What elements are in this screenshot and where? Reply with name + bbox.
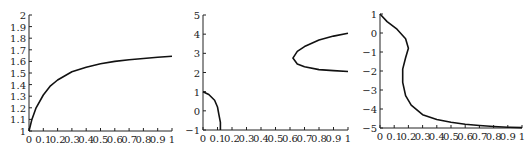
y-tick-label: 5 xyxy=(194,10,200,21)
y-tick-label: 1.9 xyxy=(10,22,26,33)
x-tick-label: 1 xyxy=(345,133,351,144)
chart-canvas: 00.10.20.30.40.50.60.70.80.9111.11.21.31… xyxy=(0,0,532,151)
x-tick-label: 0.9 xyxy=(326,133,342,144)
y-tick-label: −5 xyxy=(362,123,377,134)
x-tick-label: 0.9 xyxy=(150,134,166,145)
y-tick-label: 2 xyxy=(20,10,26,21)
series-curve xyxy=(380,14,522,128)
x-tick-label: 0 xyxy=(26,134,32,145)
y-tick-label: 1.3 xyxy=(10,91,26,102)
series-curve xyxy=(29,56,172,131)
y-tick-label: 1.7 xyxy=(10,45,26,56)
y-tick-label: −1 xyxy=(185,125,200,136)
y-tick-label: 1.8 xyxy=(10,33,26,44)
y-tick-label: 1.2 xyxy=(10,103,26,114)
y-tick-label: 1 xyxy=(371,9,377,20)
y-tick-label: 1 xyxy=(194,87,200,98)
y-tick-label: 0 xyxy=(194,106,200,117)
y-tick-label: 1 xyxy=(20,126,26,137)
y-tick-label: 1.5 xyxy=(10,68,26,79)
chart-3: 00.10.20.30.40.50.60.70.80.91−5−4−3−2−10… xyxy=(362,9,525,142)
x-tick-label: 0 xyxy=(377,131,383,142)
x-tick-label: 0 xyxy=(200,133,206,144)
chart-1: 00.10.20.30.40.50.60.70.80.9111.11.21.31… xyxy=(10,10,175,145)
y-tick-label: 1.1 xyxy=(10,114,26,125)
series-branch-upper xyxy=(293,33,348,71)
y-tick-label: 1.4 xyxy=(10,80,26,91)
y-tick-label: 1.6 xyxy=(10,56,26,67)
y-tick-label: −4 xyxy=(362,104,377,115)
y-tick-label: −1 xyxy=(362,47,377,58)
x-tick-label: 1 xyxy=(169,134,175,145)
y-tick-label: −3 xyxy=(362,85,377,96)
y-tick-label: −2 xyxy=(362,66,377,77)
y-tick-label: 3 xyxy=(194,48,200,59)
x-tick-label: 0.9 xyxy=(500,131,516,142)
y-tick-label: 2 xyxy=(194,68,200,79)
y-tick-label: 0 xyxy=(371,28,377,39)
chart-2: 00.10.20.30.40.50.60.70.80.91−1012345 xyxy=(185,10,351,144)
x-tick-label: 1 xyxy=(519,131,525,142)
y-tick-label: 4 xyxy=(194,29,200,40)
